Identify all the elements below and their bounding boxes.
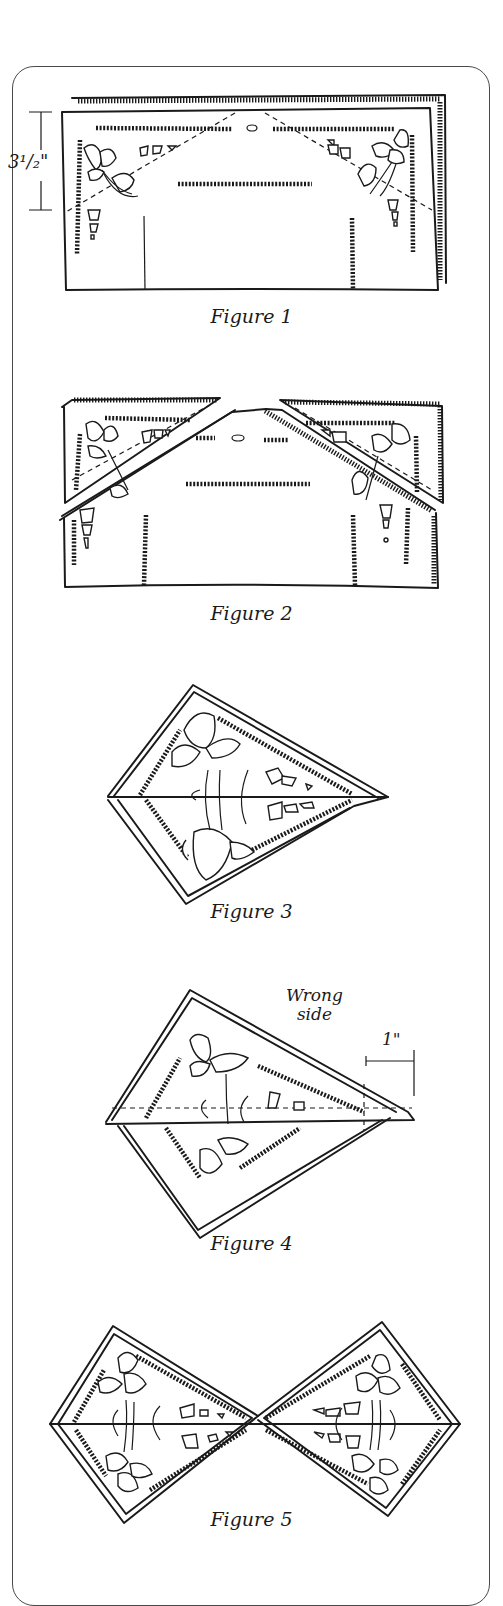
figure-5-caption: Figure 5 [0,1508,503,1530]
figure-5-drawing [0,0,503,1600]
